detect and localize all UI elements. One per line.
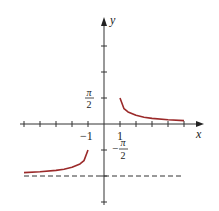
curve-right [120, 98, 184, 121]
plot-area: x y −1 1 π 2 − π 2 [0, 0, 219, 211]
x-axis [20, 121, 204, 127]
y-axis [101, 17, 107, 205]
svg-text:2: 2 [121, 150, 126, 161]
y-tick-label-pi-over-2: π 2 [85, 87, 94, 110]
svg-text:2: 2 [87, 99, 92, 110]
y-axis-arrow-icon [101, 17, 107, 26]
svg-text:−: − [112, 142, 118, 154]
y-axis-label: y [109, 13, 116, 27]
svg-text:π: π [86, 87, 92, 98]
x-axis-label: x [195, 127, 202, 141]
svg-text:π: π [120, 137, 126, 148]
y-tick-label-neg-pi-over-2: − π 2 [112, 137, 128, 161]
x-tick-label-neg1: −1 [80, 129, 93, 143]
curve-left [24, 150, 88, 173]
